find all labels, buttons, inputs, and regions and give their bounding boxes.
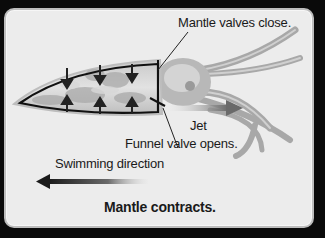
swimming-direction-arrow [36,174,148,189]
label-mantle-valves: Mantle valves close. [178,15,291,30]
label-swimming-direction: Swimming direction [55,156,164,171]
diagram-caption: Mantle contracts. [104,199,216,215]
label-funnel-valve: Funnel valve opens. [125,136,238,151]
label-jet: Jet [190,118,207,133]
